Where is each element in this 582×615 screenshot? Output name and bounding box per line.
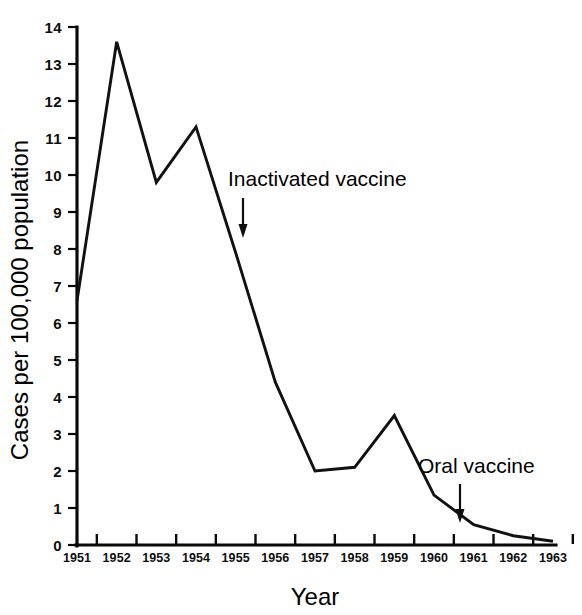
y-tick-label: 1 xyxy=(53,500,62,517)
x-tick-label: 1952 xyxy=(103,551,131,565)
x-tick-label: 1963 xyxy=(539,551,567,565)
y-tick-label: 3 xyxy=(53,426,62,443)
x-tick-label: 1951 xyxy=(63,551,91,565)
inactivated-vaccine-label: Inactivated vaccine xyxy=(228,167,407,190)
y-tick-label: 13 xyxy=(45,56,63,73)
x-tick-label: 1957 xyxy=(301,551,329,565)
oral-vaccine-label: Oral vaccine xyxy=(418,454,535,477)
x-axis-ticks xyxy=(97,534,573,544)
chart-figure: 01234567891011121314 1951195219531954195… xyxy=(0,0,582,615)
x-tick-label: 1961 xyxy=(460,551,488,565)
x-tick-label: 1959 xyxy=(380,551,408,565)
y-tick-label: 7 xyxy=(53,278,62,295)
y-tick-label: 5 xyxy=(53,352,62,369)
y-tick-label: 4 xyxy=(53,389,62,406)
x-tick-label: 1960 xyxy=(420,551,448,565)
y-tick-label: 11 xyxy=(45,130,62,147)
x-tick-label: 1962 xyxy=(499,551,527,565)
x-tick-label: 1956 xyxy=(261,551,289,565)
y-tick-label: 6 xyxy=(53,315,62,332)
y-tick-label: 2 xyxy=(53,463,62,480)
x-tick-label: 1958 xyxy=(341,551,369,565)
x-tick-label: 1955 xyxy=(222,551,250,565)
x-tick-label: 1954 xyxy=(182,551,210,565)
x-axis-tick-labels: 1951195219531954195519561957195819591960… xyxy=(63,551,567,565)
inactivated-vaccine-arrow-head xyxy=(239,224,248,238)
y-axis-title: Cases per 100,000 population xyxy=(6,140,33,460)
y-tick-label: 8 xyxy=(53,241,62,258)
y-tick-label: 10 xyxy=(45,167,63,184)
y-axis-ticks: 01234567891011121314 xyxy=(45,19,77,554)
line-chart: 01234567891011121314 1951195219531954195… xyxy=(0,0,582,615)
y-tick-label: 9 xyxy=(53,204,62,221)
y-tick-label: 14 xyxy=(45,19,63,36)
y-tick-label: 12 xyxy=(45,93,63,110)
x-tick-label: 1953 xyxy=(142,551,170,565)
x-axis-title: Year xyxy=(291,583,340,610)
y-tick-label: 0 xyxy=(53,537,62,554)
